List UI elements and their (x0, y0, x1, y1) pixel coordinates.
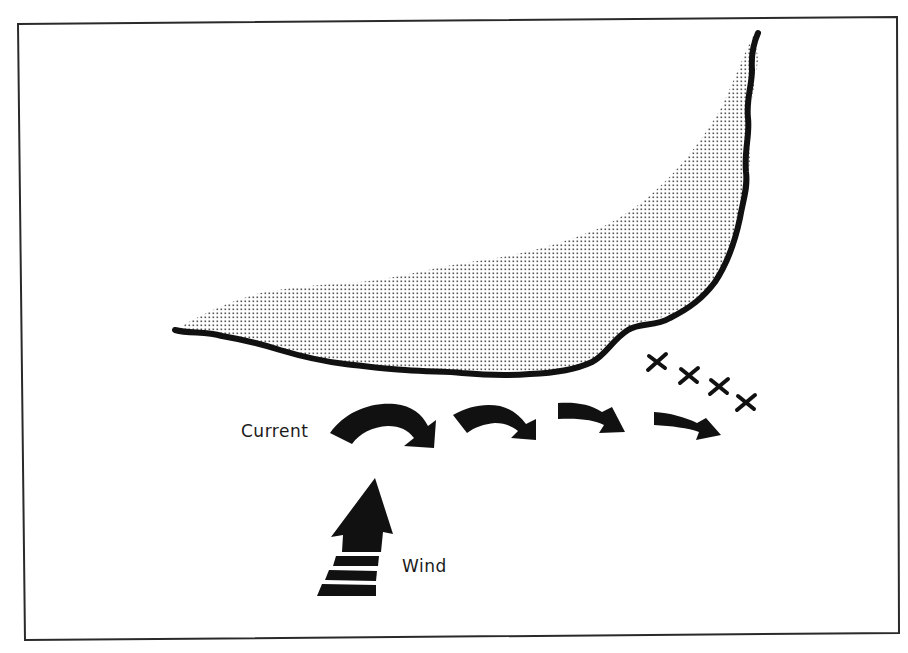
diagram-canvas (0, 0, 908, 653)
x-mark-icon (710, 379, 728, 394)
x-mark-icon (648, 354, 666, 370)
current-arrow-icon (558, 403, 625, 433)
wind-label: Wind (402, 556, 447, 576)
wind-arrow-icon (317, 478, 393, 596)
landmass (175, 33, 758, 374)
x-marks (648, 354, 755, 410)
x-mark-icon (680, 368, 698, 383)
current-arrows (330, 403, 721, 448)
current-label: Current (241, 421, 308, 441)
current-arrow-icon (330, 404, 436, 448)
current-arrow-icon (654, 412, 721, 440)
current-arrow-icon (453, 405, 536, 440)
x-mark-icon (737, 395, 755, 410)
